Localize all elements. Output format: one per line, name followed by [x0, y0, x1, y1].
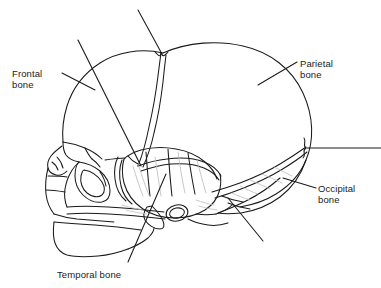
label-occipital-bone-line1: Occipital — [318, 183, 355, 194]
label-parietal-bone-line2: bone — [300, 69, 322, 80]
label-frontal-bone: Frontalbone — [12, 68, 42, 90]
skull-illustration — [0, 0, 381, 288]
jugular-region — [196, 214, 216, 215]
cranial-vault-outline — [163, 43, 312, 207]
occipital-condyle-region — [216, 205, 232, 214]
zygomatic-arch-lower — [67, 213, 165, 219]
frontal-leader-line — [62, 73, 95, 90]
orbit-inner-ring — [81, 170, 105, 197]
external-auditory-meatus — [165, 203, 190, 223]
skull-outline-group — [46, 43, 312, 257]
facial-suture-2 — [46, 190, 65, 192]
label-parietal-bone-line1: Parietal — [300, 58, 333, 69]
coronal-suture-inner — [143, 55, 166, 167]
label-frontal-bone-line2: bone — [12, 79, 34, 90]
label-occipital-bone-line2: bone — [318, 194, 340, 205]
upper-left-unlabeled-leader-line — [78, 40, 141, 166]
temporal-ridge-2 — [168, 149, 172, 196]
sphenoid-wing-inner — [120, 160, 132, 204]
parietal-leader-line — [258, 62, 297, 85]
maxilla-body — [54, 214, 114, 222]
label-occipital-bone: Occipitalbone — [318, 183, 355, 205]
top-unlabeled-leader-line — [138, 10, 162, 54]
label-parietal-bone: Parietalbone — [300, 58, 333, 80]
label-temporal-bone: Temporal bone — [57, 269, 121, 280]
label-frontal-bone-line1: Frontal — [12, 68, 42, 79]
lacrimal-detail — [92, 159, 100, 167]
basal-plate-1 — [222, 196, 243, 202]
lower-right-unlabeled-leader-line — [228, 198, 263, 241]
frontal-bone-contour — [63, 51, 163, 142]
mandible-body — [54, 222, 141, 230]
occipital-leader-line — [283, 178, 316, 188]
skull-anatomy-figure: Frontalbone Parietalbone Occipitalbone T… — [0, 0, 381, 288]
nasal-detail-1 — [57, 157, 63, 168]
nasal-detail-2 — [52, 162, 58, 170]
lambdoid-suture-lower — [215, 152, 307, 198]
occipital-inferior-margin — [218, 178, 280, 213]
styloid-region — [188, 219, 228, 225]
label-temporal-bone-line1: Temporal bone — [57, 269, 121, 280]
maxilla-outline — [46, 168, 54, 214]
facial-suture-1 — [48, 176, 67, 177]
supraorbital-ridge — [63, 142, 102, 159]
